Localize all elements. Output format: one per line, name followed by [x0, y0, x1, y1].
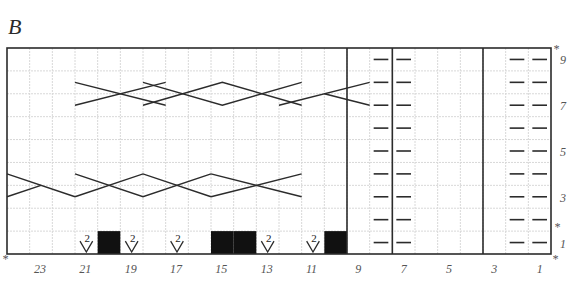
- column-label: 5: [446, 262, 452, 277]
- slip-count-label: 2: [130, 232, 136, 244]
- slip-count-label: 2: [175, 232, 181, 244]
- column-label: 23: [34, 262, 46, 277]
- column-label: 19: [125, 262, 137, 277]
- column-label: 17: [170, 262, 182, 277]
- column-label: 11: [306, 262, 317, 277]
- row-label: 5: [560, 145, 566, 160]
- row-label: 7: [560, 99, 566, 114]
- black-square-icon: [211, 231, 234, 254]
- black-square-icon: [234, 231, 257, 254]
- column-label: 9: [355, 262, 361, 277]
- repeat-marker: *: [553, 42, 559, 57]
- black-square-icon: [324, 231, 347, 254]
- row-label: 3: [560, 191, 566, 206]
- row-label: 1: [560, 237, 566, 252]
- column-label: 7: [401, 262, 407, 277]
- column-label: 21: [79, 262, 91, 277]
- column-label: 15: [215, 262, 227, 277]
- column-label: 13: [261, 262, 273, 277]
- repeat-marker: *: [552, 252, 558, 267]
- grid-lines: [7, 48, 551, 254]
- repeat-marker: *: [2, 252, 8, 267]
- slip-count-label: 2: [266, 232, 272, 244]
- black-square-icon: [98, 231, 121, 254]
- repeat-marker: *: [554, 220, 560, 235]
- slip-count-label: 2: [311, 232, 317, 244]
- row-label: 9: [560, 53, 566, 68]
- cable-cross-icon: [7, 185, 41, 196]
- column-label: 1: [537, 262, 543, 277]
- column-label: 3: [491, 262, 497, 277]
- slip-count-label: 2: [85, 232, 91, 244]
- knitting-chart: 22222: [0, 0, 576, 286]
